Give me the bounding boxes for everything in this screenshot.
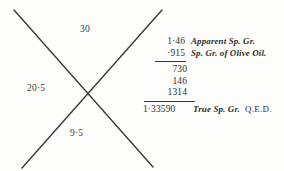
multiplier-row: ·915 Sp. Gr. of Olive Oil. [143, 48, 284, 60]
cross-value-top: 30 [80, 24, 90, 34]
result-row: 1·33590 True Sp. Gr. Q.E.D. [143, 104, 284, 116]
partial-product-row-2: 146 [143, 76, 284, 88]
partial-product-3: 1314 [143, 87, 187, 99]
calculation-block: 1·46 Apparent Sp. Gr. ·915 Sp. Gr. of Ol… [143, 36, 284, 116]
multiplicand-row: 1·46 Apparent Sp. Gr. [143, 36, 284, 48]
partial-product-1: 730 [147, 64, 187, 76]
document-page: 30 20·5 9·5 1·46 Apparent Sp. Gr. ·915 S… [0, 0, 284, 171]
multiplicand-value: 1·46 [143, 36, 185, 48]
multiplier-label: Sp. Gr. of Olive Oil. [191, 48, 266, 60]
partial-product-row-3: 1314 [143, 87, 284, 99]
sum-rule [144, 101, 195, 102]
cross-value-left: 20·5 [27, 83, 45, 93]
qed-label: Q.E.D. [245, 104, 272, 116]
result-value: 1·33590 [143, 104, 187, 116]
multiplication-rule [155, 61, 186, 62]
partial-product-row-1: 730 [143, 64, 284, 76]
multiplier-value: ·915 [143, 48, 185, 60]
result-label: True Sp. Gr. [193, 104, 240, 116]
multiplicand-label: Apparent Sp. Gr. [191, 36, 255, 48]
partial-product-2: 146 [147, 76, 187, 88]
cross-value-bottom: 9·5 [70, 128, 83, 138]
